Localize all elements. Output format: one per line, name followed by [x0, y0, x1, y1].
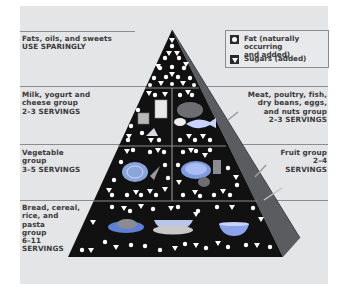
label-bread-group: Bread, cereal, rice, and pasta group 6–1… [22, 204, 80, 254]
label-meat-group: Meat, poultry, fish, dry beans, eggs, an… [248, 91, 327, 125]
sugar-triangle-icon [230, 55, 239, 64]
legend-item-sugar: Sugars (added) [230, 55, 306, 64]
fat-circle-icon [230, 35, 239, 44]
label-fruit-group: Fruit group 2–4 SERVINGS [280, 149, 327, 174]
label-vegetable-group: Vegetable group 3–5 SERVINGS [22, 149, 80, 174]
yogurt-cup [138, 113, 149, 124]
cabbage [122, 162, 148, 182]
legend-label-sugar: Sugars (added) [244, 55, 306, 63]
eggs [174, 118, 186, 126]
grapes [213, 160, 221, 174]
poultry [177, 102, 203, 118]
apple [198, 177, 210, 187]
legend: Fat (naturally occurring and added) Suga… [225, 30, 329, 68]
label-fats-oils-sweets: Fats, oils, and sweets USE SPARINGLY [22, 35, 112, 52]
milk-carton [155, 100, 167, 118]
bread-loaf [153, 226, 193, 235]
label-milk-group: Milk, yogurt and cheese group 2–3 SERVIN… [22, 91, 90, 116]
